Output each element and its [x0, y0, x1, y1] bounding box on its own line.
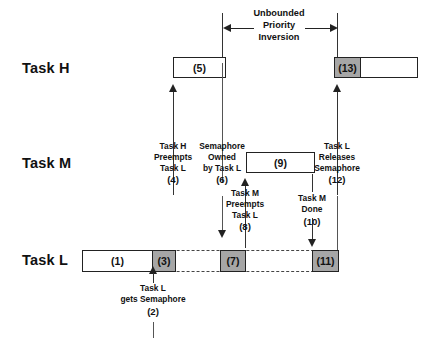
- note-10-line-1: Task M: [298, 193, 326, 203]
- note-task-m-done: Task M Done (10): [298, 193, 326, 228]
- arrowhead-up-task-l-releases-icon: [333, 84, 341, 92]
- connector-line-2-tail: [153, 322, 154, 338]
- task-m-segment-9: (9): [246, 152, 315, 173]
- task-h-segment-13-label: (13): [338, 62, 357, 74]
- note-6-number: (6): [199, 174, 245, 186]
- row-label-task-m: Task M: [22, 155, 71, 171]
- span-measure-line-right: [305, 28, 333, 29]
- task-h-segment-5: (5): [173, 57, 226, 78]
- task-h-segment-5-label: (5): [193, 62, 206, 74]
- note-task-l-gets-semaphore: Task L gets Semaphore (2): [120, 283, 185, 318]
- task-h-segment-13-bar: (13): [334, 57, 418, 78]
- note-4-line-1: Task H: [160, 141, 187, 151]
- task-l-segment-1-label: (1): [111, 255, 124, 267]
- note-8-number: (8): [226, 221, 264, 233]
- reference-line-task-l-releases: [337, 196, 338, 252]
- note-4-number: (4): [154, 174, 192, 186]
- note-4-line-3: Task L: [160, 163, 186, 173]
- span-line-2: Priority: [263, 20, 295, 30]
- task-m-segment-9-label: (9): [274, 157, 287, 169]
- arrowhead-down-semaphore-owned-icon: [218, 230, 226, 238]
- note-2-line-2: gets Semaphore: [120, 294, 185, 304]
- note-8-line-1: Task M: [231, 188, 259, 198]
- span-line-3: Inversion: [259, 32, 300, 42]
- note-12-number: (12): [314, 174, 360, 186]
- note-task-l-releases-semaphore: Task L Releases Semaphore (12): [314, 141, 360, 187]
- note-8-line-3: Task L: [232, 210, 258, 220]
- task-l-bar: (1) (3) (7) (11): [82, 250, 339, 272]
- note-6-line-1: Semaphore: [199, 141, 245, 151]
- note-task-m-preempts-task-l: Task M Preempts Task L (8): [226, 188, 264, 234]
- note-8-line-2: Preempts: [226, 199, 264, 209]
- span-tick-right: [337, 13, 338, 63]
- note-2-number: (2): [120, 306, 185, 318]
- span-label-unbounded-priority-inversion: Unbounded Priority Inversion: [253, 8, 304, 44]
- arrowhead-up-task-h-preempts-icon: [169, 84, 177, 92]
- task-l-segment-7-label: (7): [227, 255, 240, 267]
- note-task-h-preempts-task-l: Task H Preempts Task L (4): [154, 141, 192, 187]
- connector-line-2: [153, 273, 154, 283]
- connector-line-6-lower: [222, 196, 223, 230]
- note-4-line-2: Preempts: [154, 152, 192, 162]
- note-12-line-2: Releases: [319, 152, 355, 162]
- task-l-segment-3-label: (3): [158, 255, 171, 267]
- span-line-1: Unbounded: [253, 8, 304, 18]
- span-tick-left: [222, 13, 223, 63]
- span-arrowhead-right-icon: [330, 24, 338, 32]
- task-h-segment-13-white: [360, 57, 418, 78]
- task-h-segment-13-gray: (13): [334, 57, 361, 78]
- task-l-segment-11-label: (11): [316, 255, 334, 267]
- task-l-segment-7: (7): [220, 250, 246, 272]
- arrowhead-up-task-m-preempts-icon: [241, 178, 249, 186]
- arrowhead-down-task-m-done-icon: [308, 239, 316, 247]
- task-l-segment-1: (1): [82, 250, 153, 272]
- row-label-task-h: Task H: [22, 60, 70, 76]
- priority-inversion-diagram: Unbounded Priority Inversion Task H (5) …: [0, 0, 432, 348]
- note-6-line-3: by Task L: [203, 163, 241, 173]
- span-arrowhead-left-icon: [223, 24, 231, 32]
- note-semaphore-owned-by-task-l: Semaphore Owned by Task L (6): [199, 141, 245, 187]
- note-6-line-2: Owned: [208, 152, 236, 162]
- row-label-task-l: Task L: [22, 252, 68, 268]
- note-12-line-1: Task L: [324, 141, 350, 151]
- note-2-line-1: Task L: [140, 283, 166, 293]
- task-l-segment-11: (11): [312, 250, 339, 272]
- note-10-number: (10): [298, 216, 326, 228]
- note-10-line-2: Done: [302, 204, 323, 214]
- note-12-line-3: Semaphore: [314, 163, 360, 173]
- connector-line-10: [312, 174, 313, 192]
